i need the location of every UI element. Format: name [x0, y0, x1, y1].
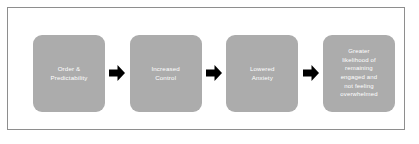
flow-chart: Order & Predictability Increased Control…	[33, 31, 395, 115]
flow-step-1-label: Order & Predictability	[50, 64, 87, 82]
right-arrow-icon	[108, 63, 126, 83]
flow-step-4: Greater likelihood of remaining engaged …	[323, 35, 395, 112]
diagram-page: Order & Predictability Increased Control…	[0, 0, 419, 144]
right-arrow-icon	[205, 63, 223, 83]
diagram-frame: Order & Predictability Increased Control…	[7, 7, 405, 130]
flow-step-4-label: Greater likelihood of remaining engaged …	[340, 47, 377, 99]
flow-step-2-label: Increased Control	[151, 64, 180, 82]
flow-step-2: Increased Control	[130, 35, 202, 112]
flow-step-3-label: Lowered Anxiety	[250, 64, 275, 82]
right-arrow-icon	[302, 63, 320, 83]
flow-step-3: Lowered Anxiety	[226, 35, 298, 112]
flow-step-1: Order & Predictability	[33, 35, 105, 112]
